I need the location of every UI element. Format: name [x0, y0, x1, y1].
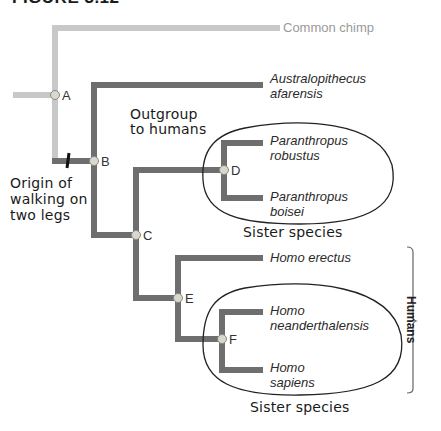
taxon-species: robustus: [270, 148, 348, 163]
node-a-marker: [51, 91, 60, 100]
node-label-c: C: [143, 229, 152, 242]
taxon-paranthropus-boisei: Paranthropus boisei: [270, 189, 348, 219]
annotation-sister-species-lower: Sister species: [250, 400, 349, 415]
bipedalism-tick-mark: [67, 153, 69, 168]
phylogenetic-tree-figure: FIGURE 3.12: [0, 0, 441, 431]
taxon-genus: Homo: [270, 303, 369, 318]
node-b-marker: [90, 157, 99, 166]
taxon-label: Common chimp: [283, 20, 374, 35]
taxon-species: boisei: [270, 204, 348, 219]
humans-label: Humans: [404, 296, 418, 343]
taxon-genus: Paranthropus: [270, 133, 348, 148]
taxon-common-chimp: Common chimp: [283, 20, 374, 35]
annotation-line: two legs: [10, 207, 88, 223]
annotation-line: to humans: [130, 122, 206, 137]
taxon-australopithecus-afarensis: Australopithecus afarensis: [270, 71, 366, 101]
taxon-species: sapiens: [270, 375, 315, 390]
taxon-homo-erectus: Homo erectus: [270, 250, 351, 265]
taxon-species: afarensis: [270, 86, 366, 101]
node-label-b: B: [101, 155, 110, 168]
annotation-outgroup: Outgroup to humans: [130, 107, 206, 137]
taxon-genus: Homo: [270, 360, 315, 375]
taxon-label: Homo erectus: [270, 250, 351, 265]
taxon-genus: Paranthropus: [270, 189, 348, 204]
node-c-marker: [132, 231, 141, 240]
node-e-marker: [174, 294, 183, 303]
taxon-species: neanderthalensis: [270, 318, 369, 333]
taxon-homo-neanderthalensis: Homo neanderthalensis: [270, 303, 369, 333]
branch-d-paranthropus: [224, 143, 263, 198]
taxon-homo-sapiens: Homo sapiens: [270, 360, 315, 390]
node-label-a: A: [62, 89, 71, 102]
node-d-marker: [220, 166, 229, 175]
taxon-genus: Australopithecus: [270, 71, 366, 86]
taxon-paranthropus-robustus: Paranthropus robustus: [270, 133, 348, 163]
annotation-line: Origin of: [10, 175, 88, 191]
annotation-line: walking on: [10, 191, 88, 207]
annotation-line: Outgroup: [130, 107, 206, 122]
annotation-origin-bipedalism: Origin of walking on two legs: [10, 175, 88, 223]
node-label-d: D: [231, 164, 240, 177]
annotation-sister-species-upper: Sister species: [243, 225, 342, 240]
node-label-f: F: [229, 333, 237, 346]
node-f-marker: [218, 335, 227, 344]
node-label-e: E: [185, 292, 194, 305]
